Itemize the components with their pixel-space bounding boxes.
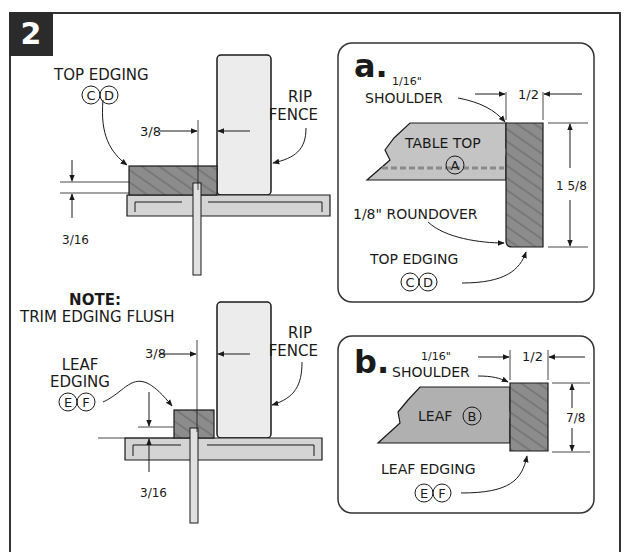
rip-fence-label-2b: FENCE <box>269 342 318 360</box>
rip-fence-label-2: FENCE <box>269 106 318 124</box>
detail-a-edging-label: TOP EDGING <box>369 251 458 267</box>
part-e-label: E <box>64 395 72 410</box>
fence-offset-dim: 3/8 <box>140 124 161 139</box>
detail-a-letter: a. <box>354 47 388 85</box>
detail-a: a. 1/16" SHOULDER 1/2 TABLE TOP A 1 5/8 … <box>338 43 594 302</box>
rip-fence-top <box>217 55 271 195</box>
part-f-label: F <box>82 395 89 410</box>
detail-a-part-c: C <box>405 275 414 290</box>
detail-a-part-d: D <box>423 275 433 290</box>
part-b-label: B <box>468 409 477 424</box>
saw-blade-top <box>193 183 201 275</box>
part-c-label: C <box>86 88 95 103</box>
note-text: TRIM EDGING FLUSH <box>19 308 174 326</box>
part-d-label: D <box>104 88 114 103</box>
table-top-label: TABLE TOP <box>404 135 481 151</box>
detail-a-width-dim: 1/2 <box>518 87 539 102</box>
height-offset-dim: 3/16 <box>62 233 89 247</box>
leaf-edging-profile <box>510 383 548 451</box>
detail-b-height-dim: 7/8 <box>566 411 585 425</box>
roundover-label: 1/8" ROUNDOVER <box>353 206 478 222</box>
leaf-label: LEAF <box>418 408 452 424</box>
detail-b-part-e: E <box>420 486 428 501</box>
saw-table-bottom <box>125 438 322 460</box>
top-edging-label: TOP EDGING <box>53 66 149 84</box>
detail-a-shoulder-dim: 1/16" <box>392 75 422 88</box>
detail-a-shoulder-label: SHOULDER <box>365 90 443 106</box>
bottom-view: NOTE: TRIM EDGING FLUSH LEAF EDGING E F … <box>19 291 322 523</box>
rip-fence-bottom <box>217 302 271 438</box>
leaf-edging-label-2: EDGING <box>50 373 110 391</box>
part-a-label: A <box>451 158 460 173</box>
note-title: NOTE: <box>69 291 121 309</box>
detail-a-height-dim: 1 5/8 <box>556 179 587 193</box>
rip-fence-label-1: RIP <box>288 88 312 106</box>
saw-table-top <box>127 195 330 216</box>
leaf-edging-label-1: LEAF <box>62 356 99 374</box>
height-offset-dim-b: 3/16 <box>140 486 167 500</box>
rip-fence-label-1b: RIP <box>288 324 312 342</box>
top-edging-stock <box>129 166 217 195</box>
detail-b-shoulder-label: SHOULDER <box>392 364 470 380</box>
detail-b-edging-label: LEAF EDGING <box>381 461 476 477</box>
detail-b-part-f: F <box>438 486 445 501</box>
detail-b: b. 1/16" SHOULDER 1/2 LEAF B 7/8 LEAF ED… <box>338 336 594 513</box>
detail-b-shoulder-dim: 1/16" <box>421 350 451 363</box>
fence-offset-dim-b: 3/8 <box>145 346 166 361</box>
detail-b-letter: b. <box>354 343 389 381</box>
saw-blade-bottom <box>190 428 198 523</box>
detail-b-width-dim: 1/2 <box>522 349 543 364</box>
top-view: TOP EDGING C D RIP FENCE 3/8 3/16 <box>53 55 330 275</box>
top-edging-profile <box>506 123 543 247</box>
